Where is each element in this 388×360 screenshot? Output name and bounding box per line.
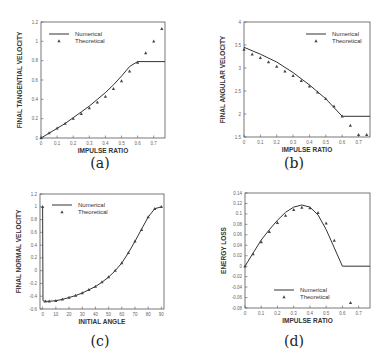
theoretical-marker (251, 52, 254, 55)
chart-c-svg: -0.6-0.4-0.200.20.40.60.811.201020304050… (0, 180, 194, 340)
y-axis-label: FINAL TANGENTIAL VELOCITY (16, 31, 23, 128)
y-axis-label: ENERGY LOSS (220, 226, 227, 274)
y-axis-label: FINAL NORMAL VELOCITY (15, 209, 22, 293)
theoretical-marker (291, 74, 294, 77)
y-tick-label: 4 (238, 20, 241, 25)
x-tick-label: 0.4 (306, 140, 313, 145)
y-tick-label: -0.08 (232, 306, 243, 311)
x-axis-label: IMPULSE RATIO (78, 147, 128, 154)
theoretical-marker (112, 87, 115, 90)
theoretical-marker (259, 56, 262, 59)
chart-d: -0.08-0.06-0.04-0.0200.020.040.060.080.1… (194, 180, 388, 360)
y-tick-label: 0.6 (32, 78, 39, 83)
x-tick-label: 10 (53, 312, 59, 317)
chart-a-svg: 00.20.40.60.811.200.10.20.30.40.50.60.7I… (0, 0, 194, 160)
theoretical-marker (160, 27, 163, 30)
y-tick-label: 0.8 (32, 58, 39, 63)
y-tick-label: 1.5 (235, 135, 242, 140)
x-tick-label: 20 (67, 312, 73, 317)
y-tick-label: -0.04 (232, 285, 243, 290)
legend-numerical: Numerical (75, 31, 102, 37)
x-tick-label: 60 (119, 312, 125, 317)
x-tick-label: 0.4 (102, 141, 109, 146)
theoretical-marker (104, 95, 107, 98)
chart-b: 1.522.533.5400.10.20.30.40.50.60.7IMPULS… (194, 0, 388, 180)
chart-b-svg: 1.522.533.5400.10.20.30.40.50.60.7IMPULS… (194, 0, 388, 160)
theoretical-series (41, 205, 163, 303)
x-tick-label: 0 (243, 140, 246, 145)
numerical-series (43, 207, 162, 301)
y-tick-label: 0.04 (233, 243, 242, 248)
x-tick-label: 40 (93, 312, 99, 317)
theoretical-marker (267, 60, 270, 63)
numerical-series (245, 205, 370, 266)
theoretical-marker (365, 133, 368, 136)
x-axis-label: IMPULSE RATIO (282, 317, 332, 324)
theoretical-marker (349, 124, 352, 127)
y-tick-label: 0 (34, 268, 37, 273)
y-tick-label: 0.06 (233, 232, 242, 237)
y-tick-label: 0 (35, 136, 38, 141)
x-tick-label: 50 (106, 312, 112, 317)
x-tick-label: 80 (146, 312, 152, 317)
legend: NumericalTheoretical (274, 287, 330, 300)
x-tick-label: 0.5 (323, 140, 330, 145)
chart-d-svg: -0.08-0.06-0.04-0.0200.020.040.060.080.1… (194, 180, 388, 340)
x-tick-label: 0.7 (151, 141, 158, 146)
x-axis-label: INITIAL ANGLE (79, 318, 127, 325)
legend-theoretical: Theoretical (332, 38, 362, 44)
y-tick-label: -0.02 (232, 274, 243, 279)
caption-d: (d) (274, 333, 314, 349)
theoretical-marker (333, 239, 336, 242)
x-tick-label: 0 (41, 312, 44, 317)
theoretical-marker (275, 65, 278, 68)
y-tick-label: 0.2 (32, 116, 39, 121)
x-axis-label: IMPULSE RATIO (282, 146, 332, 153)
caption-a: (a) (80, 155, 120, 171)
theoretical-marker (316, 211, 319, 214)
y-tick-label: 0.2 (31, 255, 38, 260)
caption-b: (b) (274, 155, 314, 171)
y-tick-label: 3.5 (235, 43, 242, 48)
legend-numerical: Numerical (300, 287, 327, 293)
x-tick-label: 0.3 (291, 311, 298, 316)
theoretical-series (243, 206, 352, 304)
theoretical-marker (60, 210, 63, 213)
y-tick-label: 0.4 (31, 243, 38, 248)
theoretical-marker (325, 222, 328, 225)
y-tick-label: 0.6 (31, 230, 38, 235)
y-tick-label: 1.2 (32, 20, 39, 25)
y-tick-label: 2 (238, 112, 241, 117)
x-tick-label: 0.6 (134, 141, 141, 146)
theoretical-marker (283, 69, 286, 72)
theoretical-marker (57, 39, 60, 42)
legend: NumericalTheoretical (49, 31, 105, 44)
y-tick-label: 0.4 (32, 97, 39, 102)
theoretical-marker (314, 39, 317, 42)
theoretical-marker (252, 252, 255, 255)
y-tick-label: 1 (35, 39, 38, 44)
y-tick-label: 1 (34, 204, 37, 209)
y-tick-label: 0.02 (233, 253, 242, 258)
y-tick-label: -0.6 (29, 307, 37, 312)
y-tick-label: -0.06 (232, 295, 243, 300)
x-tick-label: 0 (244, 311, 247, 316)
theoretical-marker (140, 228, 143, 231)
theoretical-marker (160, 205, 163, 208)
y-tick-label: 0.1 (236, 211, 243, 216)
theoretical-marker (128, 70, 131, 73)
x-tick-label: 0.2 (274, 140, 281, 145)
x-tick-label: 0.3 (86, 141, 93, 146)
caption-c: (c) (80, 333, 120, 349)
y-tick-label: 0.14 (233, 191, 242, 196)
x-tick-label: 70 (132, 312, 138, 317)
chart-a: 00.20.40.60.811.200.10.20.30.40.50.60.7I… (0, 0, 194, 180)
y-tick-label: 0.08 (233, 222, 242, 227)
y-tick-label: 0.12 (233, 201, 242, 206)
x-tick-label: 0.6 (339, 140, 346, 145)
x-tick-label: 0.1 (258, 311, 265, 316)
x-tick-label: 0.4 (307, 311, 314, 316)
y-tick-label: 1.2 (31, 192, 38, 197)
x-tick-label: 0.7 (355, 140, 362, 145)
x-tick-label: 0 (40, 141, 43, 146)
